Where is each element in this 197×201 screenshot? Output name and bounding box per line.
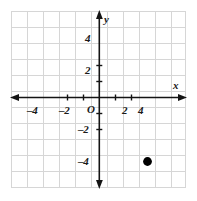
x-tick-label-2: 2 — [122, 105, 127, 116]
x-tick-label-minus-4: –4 — [27, 105, 37, 116]
y-tick-label-minus-4: –4 — [78, 156, 88, 167]
y-tick-label-4: 4 — [85, 33, 90, 44]
data-point-marker — [143, 157, 152, 166]
origin-label: O — [87, 104, 95, 115]
y-axis-label: y — [104, 14, 109, 25]
y-tick-label-minus-2: –2 — [78, 124, 88, 135]
x-axis-label: x — [173, 80, 179, 91]
y-tick-label-2: 2 — [85, 65, 90, 76]
x-tick-label-4: 4 — [138, 105, 143, 116]
coordinate-grid-svg — [0, 0, 197, 201]
coordinate-plane-figure: –4 –2 2 4 4 2 –2 –4 O x y — [0, 0, 197, 201]
x-tick-label-minus-2: –2 — [59, 105, 69, 116]
